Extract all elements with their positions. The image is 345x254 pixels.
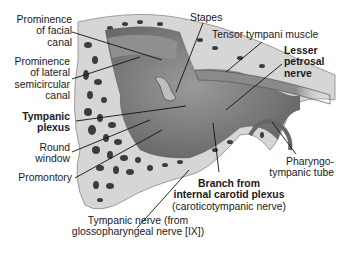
label-line: window [10, 153, 70, 164]
label-line: Tympanic nerve (from [68, 215, 208, 226]
label-stapes: Stapes [190, 12, 222, 23]
label-line: Tympanic [10, 111, 70, 122]
label-lesser-petrosal-nerve: Lesser petrosal nerve [284, 45, 324, 79]
label-promontory: Promontory [2, 172, 72, 183]
label-pharyngotympanic-tube: Pharyngo- tympanic tube [264, 156, 334, 179]
label-round-window: Round window [10, 142, 70, 165]
label-tympanic-nerve: Tympanic nerve (from glossopharyngeal ne… [68, 215, 208, 238]
label-line: nerve [284, 68, 324, 79]
label-prominence-lateral-canal: Prominence of lateral semicircular canal [2, 56, 70, 102]
label-prominence-facial-canal: Prominence of facial canal [12, 14, 72, 48]
label-line: plexus [10, 122, 70, 133]
label-caroticotympanic-nerve: (caroticotympanic nerve) [164, 201, 294, 212]
label-tympanic-plexus: Tympanic plexus [10, 111, 70, 134]
label-line: canal [12, 37, 72, 48]
label-line: semicircular [2, 79, 70, 90]
label-line: Prominence [2, 56, 70, 67]
label-line: glossopharyngeal nerve [IX]) [68, 226, 208, 237]
label-line: of lateral [2, 67, 70, 78]
label-line: Round [10, 142, 70, 153]
label-tensor-tympani-muscle: Tensor tympani muscle [212, 29, 318, 40]
label-branch-internal-carotid-plexus: Branch from internal carotid plexus [164, 178, 294, 201]
label-line: Prominence [12, 14, 72, 25]
label-line: internal carotid plexus [164, 189, 294, 200]
label-line: Branch from [164, 178, 294, 189]
label-line: Pharyngo- [264, 156, 334, 167]
label-line: petrosal [284, 56, 324, 67]
label-line: canal [2, 90, 70, 101]
label-line: of facial [12, 25, 72, 36]
label-line: Lesser [284, 45, 324, 56]
